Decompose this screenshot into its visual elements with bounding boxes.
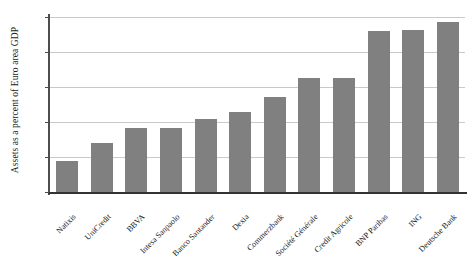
- x-axis-tick-label: BBVA: [126, 213, 147, 234]
- bar: [91, 143, 113, 192]
- x-axis-tick-label: UniCredit: [84, 213, 113, 242]
- bar: [298, 78, 320, 192]
- y-axis-tick: [45, 52, 49, 53]
- y-axis-line: [48, 14, 50, 195]
- x-axis-tick-label: ING: [408, 213, 424, 229]
- x-axis-tick-label: Natixis: [56, 213, 79, 236]
- bar: [125, 128, 147, 192]
- x-axis-tick-label: Dexia: [231, 213, 251, 233]
- plot-area: 0246810 NatixisUniCreditBBVAIntesa Sanpa…: [50, 17, 465, 192]
- bar: [195, 119, 217, 193]
- x-axis-line: [48, 192, 467, 194]
- bar: [402, 30, 424, 192]
- bar: [333, 78, 355, 192]
- bar: [264, 97, 286, 192]
- x-axis-tick-label: BNP Paribas: [354, 213, 390, 249]
- bar-chart-figure: Assets as a percent of Euro area GDP 024…: [0, 0, 473, 265]
- bar: [437, 22, 459, 192]
- y-axis-tick: [45, 122, 49, 123]
- y-axis-tick: [45, 192, 49, 193]
- y-axis-title-container: Assets as a percent of Euro area GDP: [0, 0, 30, 200]
- y-axis-tick: [45, 157, 49, 158]
- bar: [368, 31, 390, 192]
- y-axis-tick: [45, 17, 49, 18]
- y-axis-title: Assets as a percent of Euro area GDP: [10, 27, 20, 173]
- bar: [160, 128, 182, 192]
- y-axis-tick: [45, 87, 49, 88]
- bar: [229, 112, 251, 192]
- bar: [56, 161, 78, 192]
- gridline: [50, 17, 465, 18]
